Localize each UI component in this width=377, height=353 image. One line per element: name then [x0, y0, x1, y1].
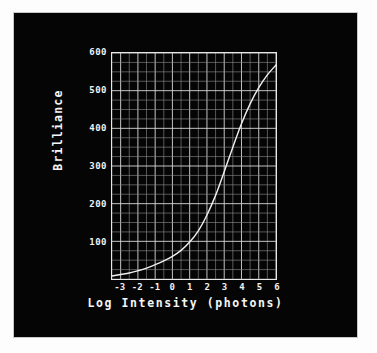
x-tick-label: 6: [274, 282, 279, 292]
x-axis-title: Log Intensity (photons): [14, 296, 357, 310]
data-curve: [112, 53, 276, 279]
y-tick-label: 600: [89, 47, 107, 57]
x-tick-label: 5: [257, 282, 262, 292]
y-axis-tick-labels: 100200300400500600: [69, 52, 107, 280]
x-tick-label: 4: [239, 282, 244, 292]
y-tick-label: 300: [89, 161, 107, 171]
plot-area: [111, 52, 277, 280]
y-tick-label: 400: [89, 123, 107, 133]
x-tick-label: -2: [132, 282, 143, 292]
x-tick-label: 0: [169, 282, 174, 292]
y-tick-label: 100: [89, 237, 107, 247]
y-axis-title: Brilliance: [51, 80, 65, 180]
series-line-brilliance-response: [112, 65, 276, 276]
x-tick-label: 1: [187, 282, 192, 292]
x-tick-label: 3: [222, 282, 227, 292]
x-tick-label: -1: [149, 282, 160, 292]
figure-plate: 100200300400500600 -3-2-10123456 Log Int…: [14, 13, 357, 337]
screenshot-root: 100200300400500600 -3-2-10123456 Log Int…: [0, 0, 377, 353]
x-tick-label: -3: [114, 282, 125, 292]
y-tick-label: 200: [89, 199, 107, 209]
chart-figure: 100200300400500600 -3-2-10123456 Log Int…: [14, 13, 357, 337]
x-tick-label: 2: [204, 282, 209, 292]
y-tick-label: 500: [89, 85, 107, 95]
x-axis-tick-labels: -3-2-10123456: [111, 282, 277, 296]
